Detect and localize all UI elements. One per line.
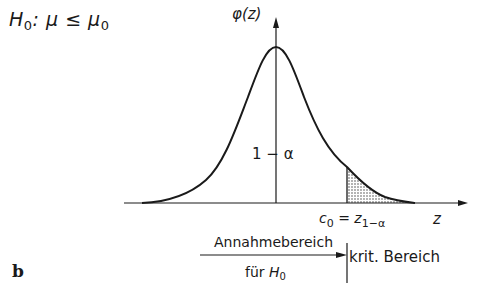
x-axis-label: z <box>433 212 441 227</box>
acceptance-probability-label: 1 − α <box>252 147 294 162</box>
acceptance-region-label: Annahmebereich <box>214 235 333 249</box>
y-axis-arrow-icon <box>273 17 279 28</box>
x-axis-arrow-icon <box>458 200 468 206</box>
acceptance-arrow-icon <box>336 252 347 258</box>
y-axis-label: φ(z) <box>232 7 261 22</box>
critical-value-label: c0 = z1−α <box>319 211 385 229</box>
critical-region-shading <box>347 167 415 203</box>
density-curve <box>142 47 415 203</box>
panel-label: b <box>12 263 24 280</box>
null-hypothesis-label: H0: μ ≤ μ0 <box>9 10 109 32</box>
critical-region-label: krit. Bereich <box>349 250 440 265</box>
acceptance-region-sublabel: für H0 <box>245 265 286 282</box>
